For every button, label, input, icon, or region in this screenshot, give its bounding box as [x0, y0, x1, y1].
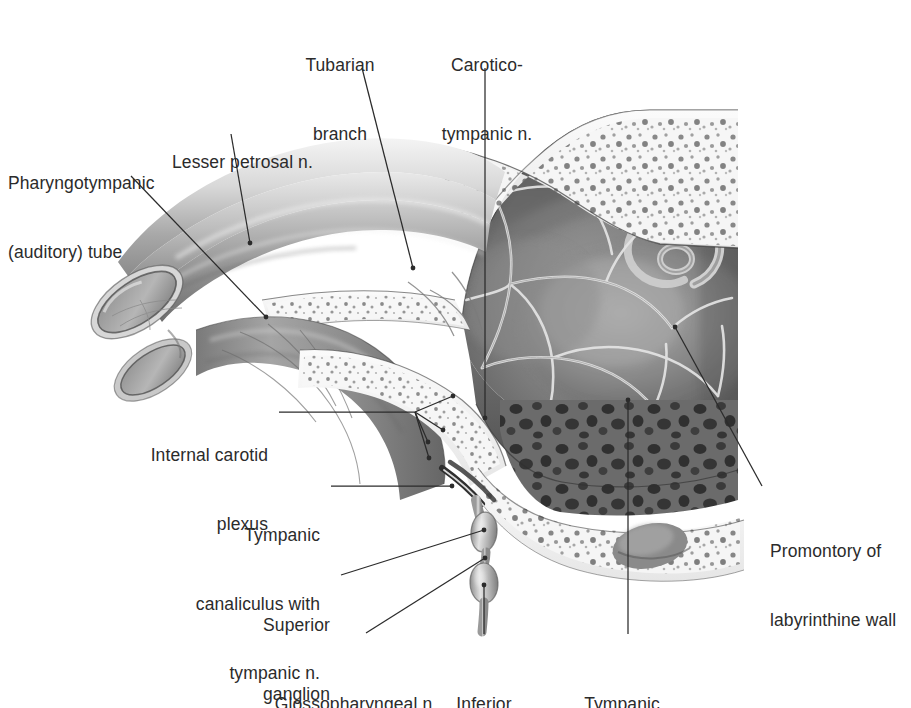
label-promontory-of-labyrinthine-wall: Promontory of labyrinthine wall — [770, 494, 911, 655]
label-pharyngotympanic-tube-line1: Pharyngotympanic — [8, 172, 248, 195]
label-pharyngotympanic-tube: Pharyngotympanic (auditory) tube — [8, 126, 248, 287]
label-internal-carotid-plexus-line1: Internal carotid — [58, 444, 268, 467]
label-pharyngotympanic-tube-line2: (auditory) tube — [8, 241, 248, 264]
label-caroticotympanic-n-line1: Carotico- — [387, 54, 587, 77]
label-promontory-line2: labyrinthine wall — [770, 609, 911, 632]
label-inferior-ganglion: Inferior ganglion — [414, 647, 554, 708]
label-superior-ganglion-line1: Superior — [130, 614, 330, 637]
label-tympanic-canaliculus-line1: Tympanic — [100, 524, 320, 547]
label-promontory-line1: Promontory of — [770, 540, 911, 563]
label-tympanic-plexus: Tympanic plexus — [552, 647, 692, 708]
figure-canvas: Tubarian branch Carotico- tympanic n. Le… — [0, 0, 911, 708]
label-tympanic-plexus-line1: Tympanic — [552, 693, 692, 708]
leader-superior-ganglion — [341, 530, 484, 575]
label-inferior-ganglion-line1: Inferior — [414, 693, 554, 708]
leader-glossopharyngeal-n — [366, 558, 485, 633]
